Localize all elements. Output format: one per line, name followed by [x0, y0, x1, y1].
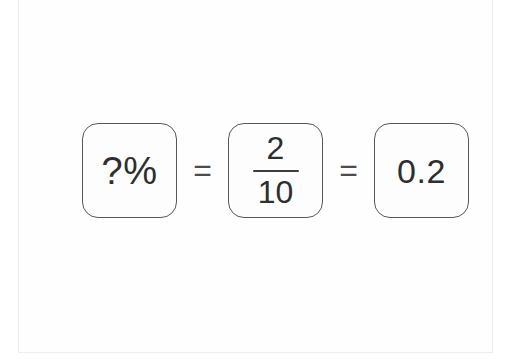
equals-sign-second: =	[323, 154, 374, 188]
worksheet-card: ?% = 2 10 = 0.2	[18, 0, 493, 353]
fraction-bar	[253, 170, 299, 172]
decimal-box-label: 0.2	[397, 154, 446, 188]
fraction-box: 2 10	[228, 123, 323, 218]
diagram-canvas: ?% = 2 10 = 0.2	[0, 0, 514, 361]
percent-box-label: ?%	[102, 152, 158, 190]
fraction-denominator: 10	[258, 176, 294, 210]
fraction: 2 10	[253, 132, 299, 209]
percent-fraction-decimal-equation: ?% = 2 10 = 0.2	[82, 123, 469, 218]
fraction-numerator: 2	[267, 132, 285, 166]
decimal-box: 0.2	[374, 123, 469, 218]
percent-box: ?%	[82, 123, 177, 218]
equals-sign-first: =	[177, 154, 228, 188]
